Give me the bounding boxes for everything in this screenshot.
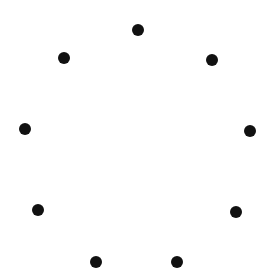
dot-7 bbox=[32, 204, 44, 216]
dot-2 bbox=[206, 54, 218, 66]
dot-5 bbox=[171, 256, 183, 268]
dot-4 bbox=[230, 206, 242, 218]
dot-6 bbox=[90, 256, 102, 268]
dot-3 bbox=[244, 125, 256, 137]
dot-8 bbox=[19, 123, 31, 135]
dot-9 bbox=[58, 52, 70, 64]
dot-1 bbox=[132, 24, 144, 36]
